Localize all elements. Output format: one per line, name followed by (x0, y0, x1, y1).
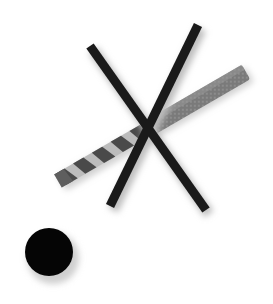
drill-hole-dot-icon (25, 228, 79, 284)
illustration: Do not drill here (0, 0, 273, 304)
cross-x-icon (90, 25, 209, 214)
